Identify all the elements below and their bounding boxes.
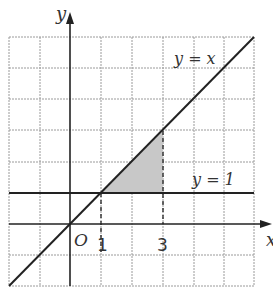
y-axis <box>66 12 74 286</box>
label-y-equals-1: y = 1 <box>191 170 235 189</box>
y-axis-label: y <box>55 3 67 24</box>
label-y-equals-x: y = x <box>173 49 216 68</box>
x-axis-label: x <box>266 229 273 250</box>
tick-1: 1 <box>97 235 108 255</box>
origin-label: O <box>74 230 88 250</box>
coordinate-diagram: y x O 1 3 y = x y = 1 <box>0 0 273 293</box>
tick-3: 3 <box>157 235 168 255</box>
x-axis <box>9 220 272 228</box>
